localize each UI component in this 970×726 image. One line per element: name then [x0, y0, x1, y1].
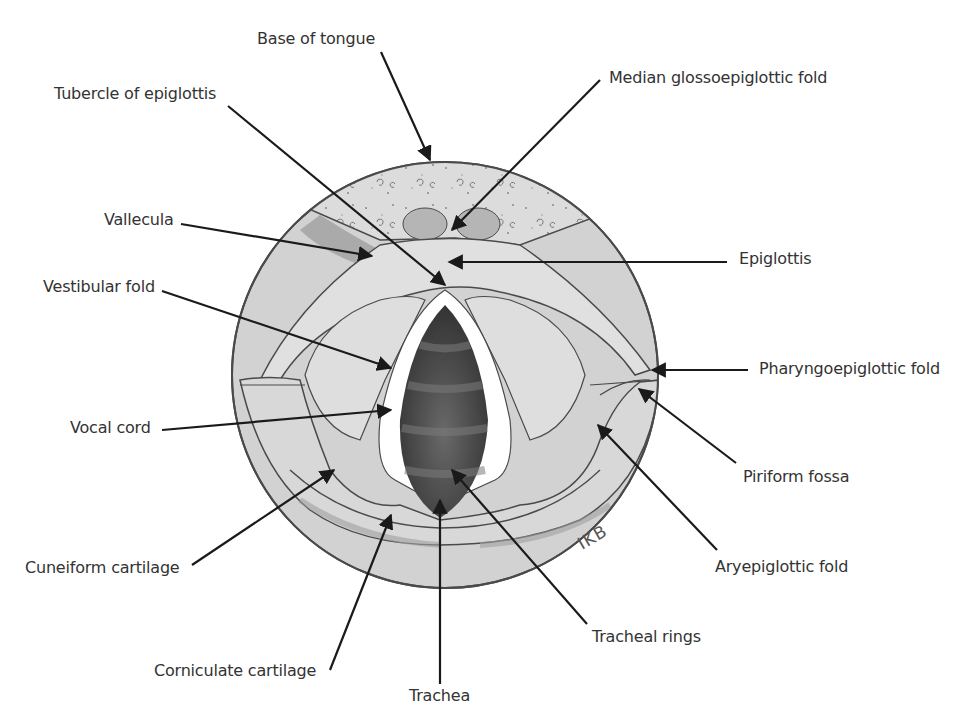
larynx-view-circle	[200, 150, 700, 588]
label-aryepiglottic-fold: Aryepiglottic fold	[715, 557, 848, 577]
label-tracheal-rings: Tracheal rings	[592, 627, 701, 647]
label-piriform-fossa: Piriform fossa	[743, 467, 849, 487]
label-base-of-tongue: Base of tongue	[257, 29, 375, 49]
label-epiglottis: Epiglottis	[739, 249, 811, 269]
base-of-tongue-region	[200, 150, 700, 245]
label-vestibular-fold: Vestibular fold	[43, 277, 155, 297]
label-tubercle-of-epiglottis: Tubercle of epiglottis	[54, 84, 216, 104]
label-median-glossoepiglottic-fold: Median glossoepiglottic fold	[609, 68, 827, 88]
leader-base-of-tongue	[381, 52, 430, 160]
label-cuneiform-cartilage: Cuneiform cartilage	[25, 558, 179, 578]
label-vallecula: Vallecula	[104, 210, 174, 230]
label-corniculate-cartilage: Corniculate cartilage	[154, 661, 316, 681]
label-trachea: Trachea	[409, 686, 470, 706]
leader-piriform-fossa	[639, 389, 736, 463]
label-vocal-cord: Vocal cord	[70, 418, 151, 438]
label-pharyngoepiglottic-fold: Pharyngoepiglottic fold	[759, 359, 940, 379]
